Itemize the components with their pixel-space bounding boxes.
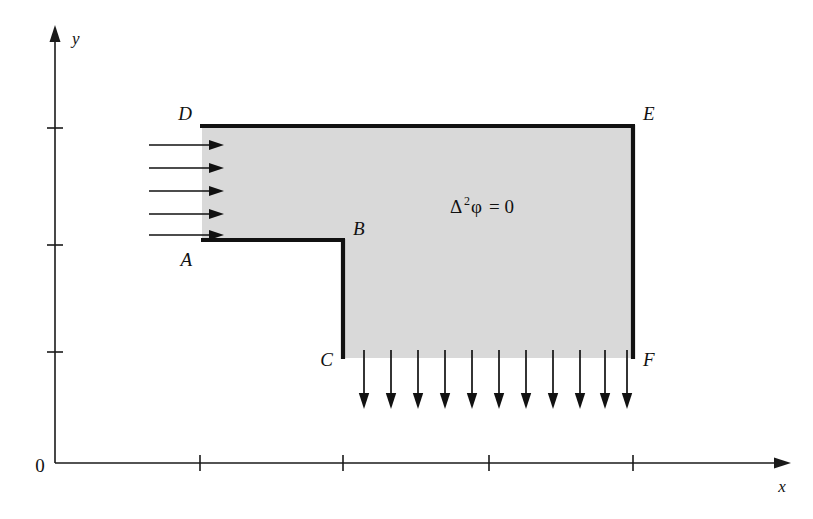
figure-container: D A B C E F Δ 2 φ = 0 y x 0 — [0, 0, 813, 519]
vertex-label-F: F — [642, 349, 655, 370]
equation-equals-zero: = 0 — [489, 196, 514, 217]
bottom-load-arrowhead — [600, 393, 610, 409]
bottom-load-arrowhead — [494, 393, 504, 409]
equation-field-symbol: φ — [471, 196, 482, 217]
bottom-load-arrowhead — [548, 393, 558, 409]
vertex-label-D: D — [177, 103, 192, 124]
bottom-load-arrowhead — [386, 393, 396, 409]
bottom-load-arrowhead — [440, 393, 450, 409]
y-axis-arrowhead — [50, 25, 61, 42]
vertex-label-B: B — [353, 218, 365, 239]
equation-exponent: 2 — [464, 194, 470, 208]
x-axis-arrowhead — [774, 458, 791, 469]
equation-operator: Δ — [450, 196, 462, 217]
bottom-load-arrowhead — [359, 393, 369, 409]
bottom-load-arrowhead — [413, 393, 423, 409]
vertex-label-A: A — [178, 249, 192, 270]
y-axis-label: y — [70, 29, 80, 48]
bottom-load-arrow-group — [359, 350, 632, 409]
vertex-label-E: E — [642, 103, 655, 124]
diagram-canvas: D A B C E F Δ 2 φ = 0 y x 0 — [0, 0, 813, 519]
origin-label: 0 — [35, 455, 45, 476]
vertex-label-C: C — [320, 349, 333, 370]
bottom-load-arrowhead — [467, 393, 477, 409]
bottom-load-arrowhead — [521, 393, 531, 409]
x-axis-label: x — [777, 477, 786, 496]
bottom-load-arrowhead — [575, 393, 585, 409]
bottom-load-arrowhead — [622, 393, 632, 409]
